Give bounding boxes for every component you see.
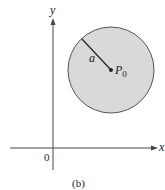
y-axis-arrow-icon: [51, 18, 56, 25]
y-axis-label: y: [50, 4, 55, 16]
center-label-subscript: 0: [122, 69, 127, 79]
center-point: [109, 68, 113, 72]
figure-caption: (b): [72, 178, 85, 189]
x-axis-arrow-icon: [151, 146, 158, 151]
x-axis-label: x: [159, 141, 164, 153]
center-label: P0: [115, 64, 127, 79]
diagram-canvas: [0, 0, 165, 190]
radius-label: a: [89, 52, 95, 64]
origin-label: 0: [44, 152, 50, 163]
